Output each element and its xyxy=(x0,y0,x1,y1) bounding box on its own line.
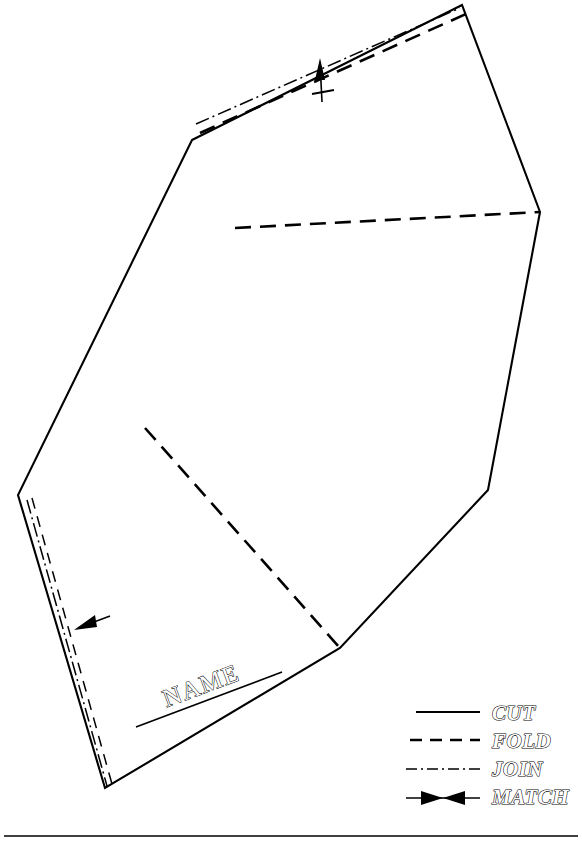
legend-label-cut: CUT xyxy=(492,703,536,724)
match-arrow-icon-head-left xyxy=(421,791,443,805)
legend-label-match: MATCH xyxy=(492,787,569,808)
match-arrow-icon-head-right xyxy=(443,791,465,805)
match-mark-top-arrowhead xyxy=(315,58,325,80)
legend-label-fold: FOLD xyxy=(492,731,551,752)
match-arrow-icon xyxy=(406,791,480,805)
legend-samples-group xyxy=(406,712,480,805)
cut-outline xyxy=(18,5,540,788)
legend-label-join: JOIN xyxy=(492,759,543,780)
drawing-page: NAME CUT FOLD JOIN MATCH xyxy=(0,0,582,852)
cut-outline-group xyxy=(18,5,540,788)
